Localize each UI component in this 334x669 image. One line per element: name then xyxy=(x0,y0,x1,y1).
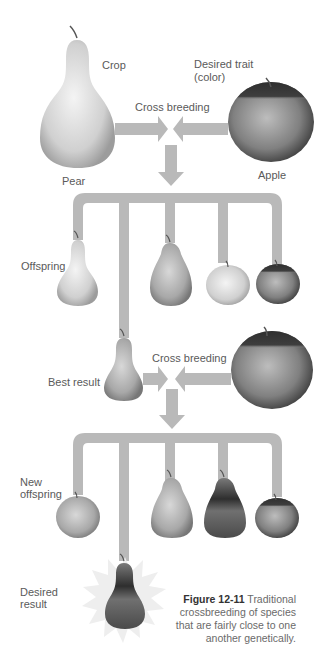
arrow-right-icon xyxy=(143,366,168,392)
offspring-apple-light-icon xyxy=(206,261,250,305)
new-offspring-apple-icon xyxy=(56,492,100,538)
offspring-apple-dark-icon xyxy=(256,260,300,304)
figure-number: Figure 12-11 xyxy=(183,593,244,605)
arrow-down-icon xyxy=(158,145,184,186)
best-result-pear-icon xyxy=(104,329,143,401)
apple-desired-trait-icon xyxy=(228,78,314,162)
cross-breeding-arrows-2 xyxy=(143,366,231,429)
arrow-left-icon xyxy=(173,116,228,142)
label-new-offspring-2: offspring xyxy=(20,488,62,501)
label-desired-trait-color: (color) xyxy=(194,71,225,84)
arrow-right-icon xyxy=(115,116,168,142)
label-cross-breeding-1: Cross breeding xyxy=(135,101,210,114)
pear-crop-icon xyxy=(40,26,115,168)
new-offspring-pear-icon xyxy=(151,470,193,538)
label-offspring: Offspring xyxy=(21,260,65,273)
label-best-result: Best result xyxy=(48,376,100,389)
new-offspring-dark-pear-icon xyxy=(204,470,246,538)
label-pear: Pear xyxy=(62,175,85,188)
label-desired-trait: Desired trait xyxy=(194,58,253,71)
apple-second-cross-icon xyxy=(231,327,313,409)
offspring-pear-mid-icon xyxy=(150,235,192,306)
label-desired-result-2: result xyxy=(20,598,47,611)
cross-breeding-arrows-1 xyxy=(115,116,228,186)
label-apple: Apple xyxy=(258,169,286,182)
figure-caption: Figure 12-11 Traditional crossbreeding o… xyxy=(160,593,296,645)
arrow-down-icon xyxy=(159,389,185,429)
label-crop: Crop xyxy=(102,59,126,72)
label-cross-breeding-2: Cross breeding xyxy=(152,352,227,365)
new-offspring-dark-apple-icon xyxy=(255,494,299,538)
arrow-left-icon xyxy=(175,366,231,392)
